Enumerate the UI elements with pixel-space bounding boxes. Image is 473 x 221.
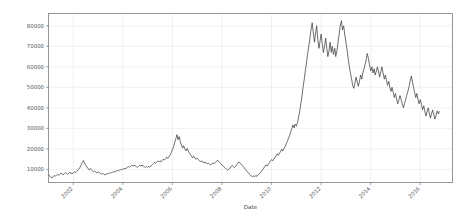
x-axis-label: Date xyxy=(244,204,258,210)
y-tick-label: 80000 xyxy=(27,23,45,29)
y-tick-label: 70000 xyxy=(27,43,45,49)
y-tick-label: 60000 xyxy=(27,64,45,70)
y-tick-label: 10000 xyxy=(27,166,45,172)
y-tick-label: 20000 xyxy=(27,146,45,152)
chart-figure: 1000020000300004000050000600007000080000… xyxy=(0,0,473,221)
y-tick-label: 50000 xyxy=(27,84,45,90)
y-tick-label: 30000 xyxy=(27,125,45,131)
line-chart: 1000020000300004000050000600007000080000… xyxy=(0,0,473,221)
y-tick-label: 40000 xyxy=(27,105,45,111)
